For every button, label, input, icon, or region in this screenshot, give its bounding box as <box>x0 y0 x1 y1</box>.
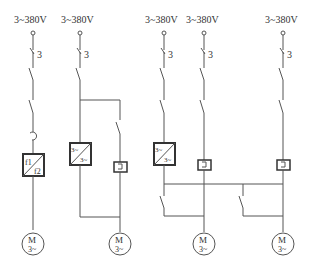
switch-icon <box>239 196 243 208</box>
terminal-icon <box>162 31 166 35</box>
motor-sub-label: 3~ <box>28 245 37 254</box>
switch-icon <box>160 196 164 208</box>
switch-icon <box>200 68 204 80</box>
motor-label: M <box>278 235 286 245</box>
terminal-icon <box>78 31 82 35</box>
branch-5: 3 M 3~ <box>272 31 294 255</box>
fuse-label: 3 <box>168 49 173 60</box>
switch-icon <box>160 68 164 80</box>
switch-icon <box>279 68 283 80</box>
branch-3: 3 3~ 3~ <box>154 31 283 216</box>
fuse-label: 3 <box>37 49 42 60</box>
supply-label-5: 3~380V <box>265 14 298 25</box>
converter-top-label: 3~ <box>71 146 79 154</box>
branch-4: 3 M 3~ <box>193 31 215 255</box>
motor-label: M <box>28 235 36 245</box>
motor-label: M <box>115 235 123 245</box>
supply-label-3: 3~380V <box>145 14 178 25</box>
branch-2: 3 3~ 3~ M 3~ <box>70 31 131 255</box>
switch-icon <box>76 68 80 80</box>
fuse-label: 3 <box>84 49 89 60</box>
terminal-icon <box>281 31 285 35</box>
switch-icon <box>160 100 164 113</box>
fc-top-label: f1 <box>25 158 32 167</box>
schematic: 3~380V 3~380V 3~380V 3~380V 3~380V 3 f1 … <box>0 0 315 274</box>
supply-label-1: 3~380V <box>14 14 47 25</box>
motor-label: M <box>199 235 207 245</box>
branch-1: 3 f1 f2 M 3~ <box>22 31 44 255</box>
thermal-relay-icon <box>30 132 37 140</box>
supply-label-4: 3~380V <box>186 14 219 25</box>
switch-icon <box>116 122 120 134</box>
switch-icon <box>279 100 283 113</box>
motor-sub-label: 3~ <box>115 245 124 254</box>
motor-sub-label: 3~ <box>278 245 287 254</box>
switch-icon <box>200 100 204 113</box>
supply-label-2: 3~380V <box>61 14 94 25</box>
fuse-label: 3 <box>287 49 292 60</box>
converter-bottom-label: 3~ <box>164 156 172 164</box>
fc-bottom-label: f2 <box>34 167 41 176</box>
fuse-label: 3 <box>208 49 213 60</box>
switch-icon <box>29 68 33 80</box>
terminal-icon <box>31 31 35 35</box>
converter-top-label: 3~ <box>155 146 163 154</box>
switch-icon <box>29 100 33 113</box>
motor-sub-label: 3~ <box>199 245 208 254</box>
terminal-icon <box>202 31 206 35</box>
converter-bottom-label: 3~ <box>80 156 88 164</box>
